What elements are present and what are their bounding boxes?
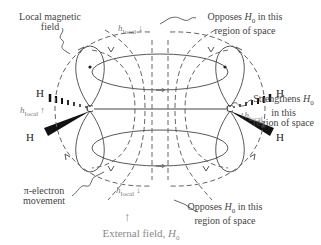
h-top-left-label: H [36, 88, 44, 99]
h-bottom-left-label: H [26, 132, 34, 143]
external-field-label: External field, H0 [86, 228, 196, 243]
leader-pi-movement [72, 172, 104, 196]
local-field-lines [55, 30, 265, 200]
carbon-right-label: C [226, 103, 233, 114]
wedge-bond-left [44, 111, 90, 136]
carbon-left-label: C [86, 103, 93, 114]
opposes-top-label: Opposes H0 in this region of space [196, 12, 294, 36]
pi-ring-bottom [92, 130, 228, 166]
electron-dot-left [88, 65, 91, 68]
pi-electron-movement-label: π-electron movement [16, 186, 72, 206]
opposes-bottom-label: Opposes H0 in this region of space [176, 202, 274, 226]
h-local-top: hlocal ↓ [118, 24, 143, 37]
h-local-left: hlocal ↑ [20, 106, 45, 119]
leader-opposes-top [160, 17, 196, 24]
pi-ring-top [92, 54, 228, 90]
p-orbital-left-top [76, 46, 105, 107]
external-field-arrow-icon: ↑ [124, 212, 131, 222]
p-orbital-right-top [216, 46, 245, 107]
p-orbital-left-bottom [76, 111, 105, 172]
local-magnetic-field-label: Local magnetic field [14, 12, 86, 32]
electron-dot-right [223, 65, 226, 68]
h-bottom-right-label: H [276, 132, 284, 143]
h-local-bottom: hlocal ↓ [116, 186, 141, 199]
h-local-right: ↑hlocal [240, 111, 263, 124]
